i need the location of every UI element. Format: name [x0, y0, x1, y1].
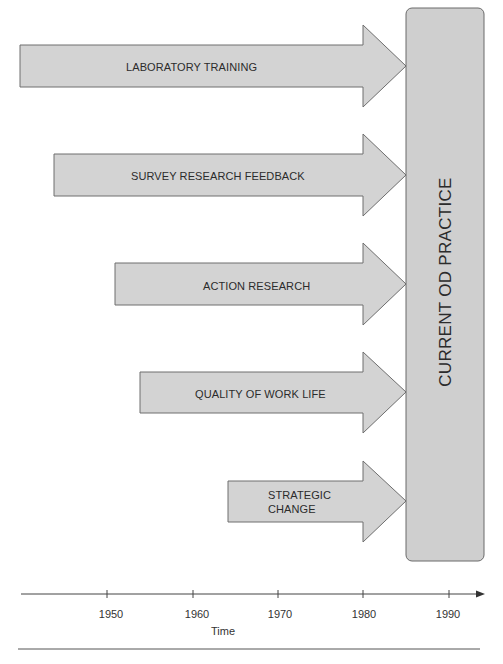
label-survey-research-feedback: SURVEY RESEARCH FEEDBACK — [131, 169, 305, 183]
tick-label-1960: 1960 — [185, 608, 209, 620]
tick-label-1950: 1950 — [99, 608, 123, 620]
label-action-research: ACTION RESEARCH — [203, 279, 310, 293]
label-strategic-line1: STRATEGIC — [268, 488, 331, 502]
label-strategic-change: STRATEGIC CHANGE — [268, 488, 331, 516]
current-od-practice-label: CURRENT OD PRACTICE — [436, 177, 456, 386]
diagram-canvas — [0, 0, 503, 664]
tick-label-1990: 1990 — [436, 608, 460, 620]
label-strategic-line2: CHANGE — [268, 502, 331, 516]
label-laboratory-training: LABORATORY TRAINING — [126, 60, 257, 74]
label-quality-of-work-life: QUALITY OF WORK LIFE — [195, 387, 326, 401]
tick-label-1970: 1970 — [268, 608, 292, 620]
timeline-arrowhead-icon — [476, 591, 485, 598]
tick-label-1980: 1980 — [352, 608, 376, 620]
timeline-axis-title: Time — [211, 625, 235, 637]
